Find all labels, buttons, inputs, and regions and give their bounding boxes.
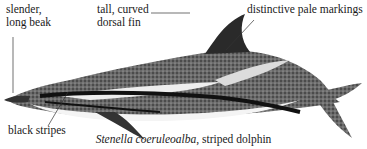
label-pale-markings: distinctive pale markings: [247, 3, 363, 15]
dolphin-diagram: slender, long beak tall, curved dorsal f…: [0, 0, 367, 149]
figure-caption: Stenella coeruleoalba, striped dolphin: [0, 133, 367, 145]
label-fin-line2: dorsal fin: [97, 16, 141, 28]
label-fin-line1: tall, curved: [97, 3, 149, 15]
label-beak-line2: long beak: [6, 16, 51, 28]
tail-fluke: [318, 83, 362, 138]
caption-species: Stenella coeruleoalba: [96, 133, 197, 145]
label-beak-line1: slender,: [6, 3, 42, 15]
caption-common-name: , striped dolphin: [196, 133, 271, 145]
